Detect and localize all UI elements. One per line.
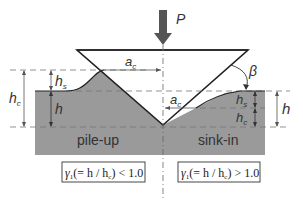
pile-up-label: pile-up <box>77 132 119 148</box>
hc-label-left: hc <box>9 90 21 108</box>
formula-right: γ1(= h / hc) > 1.0 <box>181 166 259 181</box>
h-label-right: h <box>282 100 290 117</box>
beta-label: β <box>248 63 257 79</box>
load-arrow <box>154 10 172 45</box>
hc-dimension-left <box>22 70 26 127</box>
load-label: P <box>176 11 186 27</box>
hs-dimension-left <box>49 70 53 91</box>
hs-label-left: hs <box>55 73 67 91</box>
sink-in-label: sink-in <box>198 132 238 148</box>
h-dimension-right <box>275 91 279 127</box>
formula-left: γ1(= h / hc) < 1.0 <box>65 166 143 181</box>
indentation-diagram: P ac ac β hc hs h hs <box>0 0 303 208</box>
h-label-left: h <box>55 101 63 117</box>
